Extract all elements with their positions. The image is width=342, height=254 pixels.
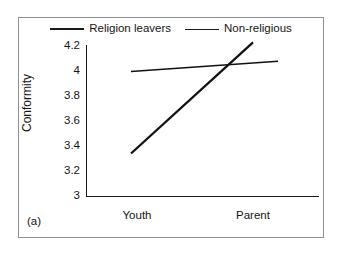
y-tick-label: 3.4 (42, 140, 80, 152)
y-tick-label: 3.6 (42, 115, 80, 127)
x-tick-label-youth: Youth (107, 210, 167, 222)
y-tick-label: 3.2 (42, 165, 80, 177)
plot-area (0, 0, 342, 254)
chart-axes (87, 45, 319, 197)
figure-panel-a: Religion leavers Non-religious 4.2 4 3.8… (0, 0, 342, 254)
y-tick-label: 4 (42, 65, 80, 77)
panel-caption: (a) (27, 216, 41, 228)
y-tick-label: 3.8 (42, 90, 80, 102)
x-tick-label-parent: Parent (223, 210, 283, 222)
y-tick-label: 4.2 (42, 40, 80, 52)
y-axis-label: Conformity (20, 58, 34, 148)
series-line-non-religious (131, 61, 278, 71)
series-line-religion-leavers (131, 42, 253, 153)
y-tick-label: 3 (42, 190, 80, 202)
